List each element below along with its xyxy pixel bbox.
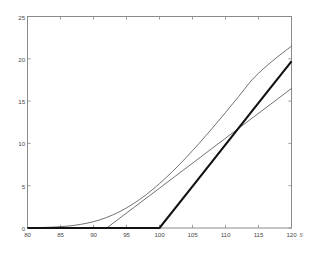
y-tick-label: 5: [22, 182, 25, 189]
y-tick-label: 25: [18, 13, 25, 20]
x-tick-label: 95: [123, 231, 130, 238]
data-series: [28, 46, 292, 228]
x-tick-label: 105: [187, 231, 197, 238]
axes-frame: [28, 17, 292, 229]
tick-marks: [28, 17, 292, 229]
x-tick-label: 100: [154, 231, 164, 238]
chart-figure: 80859095100105110115120 0510152025 S: [0, 0, 314, 255]
x-tick-label: 80: [24, 231, 31, 238]
series-line-0: [28, 46, 292, 228]
x-tick-label: 85: [57, 231, 64, 238]
x-tick-label: 90: [90, 231, 97, 238]
plot-canvas: [0, 0, 314, 255]
x-tick-label: 110: [221, 231, 231, 238]
y-tick-label: 20: [18, 55, 25, 62]
y-tick-label: 10: [18, 140, 25, 147]
plot-frame: [28, 17, 292, 229]
x-tick-label: 120: [286, 231, 296, 238]
y-tick-label: 15: [18, 98, 25, 105]
series-line-1: [107, 88, 292, 228]
series-line-2: [28, 61, 292, 228]
x-tick-label: 115: [254, 231, 264, 238]
x-axis-label: S: [300, 231, 303, 238]
y-tick-label: 0: [22, 225, 25, 232]
